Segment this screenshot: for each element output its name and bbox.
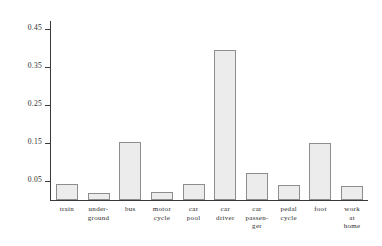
y-tick: 0.05 bbox=[45, 181, 50, 182]
y-tick: 0.25 bbox=[45, 105, 50, 106]
x-tick-label: car driver bbox=[210, 205, 242, 222]
bar bbox=[309, 143, 331, 201]
bar bbox=[151, 192, 173, 200]
bar bbox=[183, 184, 205, 200]
x-tick-label: car passen- ger bbox=[241, 205, 273, 231]
y-tick-label: 0.05 bbox=[28, 175, 42, 184]
x-axis-line bbox=[50, 200, 368, 201]
y-tick-label: 0.35 bbox=[28, 61, 42, 70]
x-tick-label: motor cycle bbox=[146, 205, 178, 222]
x-tick-label: under- ground bbox=[83, 205, 115, 222]
x-tick-label: train bbox=[51, 205, 83, 214]
x-tick-label: foot bbox=[305, 205, 337, 214]
y-tick-label: 0.25 bbox=[28, 99, 42, 108]
bar bbox=[278, 185, 300, 200]
bar-series bbox=[51, 21, 368, 200]
x-axis-tick-labels: trainunder- groundbusmotor cyclecar pool… bbox=[50, 205, 368, 245]
bar bbox=[56, 184, 78, 200]
y-tick-label: 0.45 bbox=[28, 23, 42, 32]
bar bbox=[119, 142, 141, 200]
x-tick-label: pedal cycle bbox=[273, 205, 305, 222]
y-tick: 0.15 bbox=[45, 143, 50, 144]
plot-area: 0.050.150.250.350.45 bbox=[50, 21, 368, 200]
x-tick-label: work at home bbox=[336, 205, 368, 231]
y-tick: 0.35 bbox=[45, 67, 50, 68]
bar bbox=[214, 50, 236, 200]
bar bbox=[341, 186, 363, 200]
y-tick-label: 0.15 bbox=[28, 137, 42, 146]
relative-frequency-bar-chart: relative frequency 0.050.150.250.350.45 … bbox=[0, 0, 382, 246]
x-tick-label: car pool bbox=[178, 205, 210, 222]
bar bbox=[246, 173, 268, 200]
x-tick-label: bus bbox=[114, 205, 146, 214]
y-tick: 0.45 bbox=[45, 29, 50, 30]
bar bbox=[88, 193, 110, 200]
